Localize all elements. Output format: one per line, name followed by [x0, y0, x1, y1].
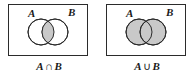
venn-circles-intersection	[8, 4, 88, 56]
caption-intersection: A∩B	[6, 59, 92, 73]
caption-operand-b-union: B	[153, 60, 160, 72]
venn-diagram-figure: A B A∩B A B A∪B	[0, 0, 196, 78]
venn-panel-intersection: A B A∩B	[6, 0, 92, 78]
caption-operator-union: ∪	[142, 60, 153, 72]
venn-circles-union	[106, 4, 186, 56]
caption-operand-a-union: A	[134, 60, 141, 72]
caption-operator-intersection: ∩	[44, 60, 55, 72]
set-label-b-union: B	[166, 7, 173, 18]
caption-operand-b-intersection: B	[54, 60, 61, 72]
set-label-a-union: A	[126, 8, 133, 19]
set-label-a-intersection: A	[28, 8, 35, 19]
set-label-b-intersection: B	[68, 7, 75, 18]
venn-panel-union: A B A∪B	[104, 0, 190, 78]
caption-operand-a-intersection: A	[36, 60, 43, 72]
caption-union: A∪B	[104, 59, 190, 73]
